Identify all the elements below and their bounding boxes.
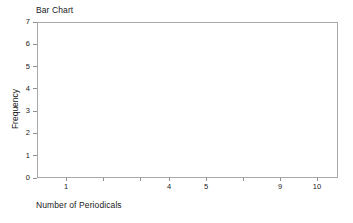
y-axis-tick-mark bbox=[33, 111, 37, 112]
y-axis-tick-label: 2 bbox=[18, 128, 30, 137]
bar-chart-figure: Bar Chart Frequency 01234567 145910 Numb… bbox=[0, 0, 353, 223]
y-axis-tick-label: 1 bbox=[18, 151, 30, 160]
x-axis-tick-label: 1 bbox=[56, 182, 76, 191]
y-axis-tick-label: 4 bbox=[18, 84, 30, 93]
y-axis-tick-mark bbox=[33, 44, 37, 45]
x-axis-title: Number of Periodicals bbox=[36, 200, 122, 211]
x-axis-tick-mark bbox=[66, 178, 67, 181]
y-axis-tick-label: 6 bbox=[18, 39, 30, 48]
y-axis-tick-mark bbox=[33, 22, 37, 23]
x-axis-tick-mark bbox=[280, 178, 281, 181]
x-axis-tick-label: 4 bbox=[159, 182, 179, 191]
x-axis-tick-mark bbox=[317, 178, 318, 181]
y-axis-tick-label: 7 bbox=[18, 17, 30, 26]
y-axis-tick-mark bbox=[33, 66, 37, 67]
x-axis-tick-label: 5 bbox=[196, 182, 216, 191]
plot-area bbox=[38, 23, 337, 177]
y-axis-tick-label: 3 bbox=[18, 106, 30, 115]
x-axis-tick-mark bbox=[206, 178, 207, 181]
chart-title: Bar Chart bbox=[36, 5, 73, 16]
x-axis-tick-mark bbox=[140, 178, 141, 181]
x-axis-tick-label: 10 bbox=[307, 182, 327, 191]
bars-layer bbox=[38, 23, 337, 177]
x-axis-tick-mark bbox=[243, 178, 244, 181]
x-axis-tick-mark bbox=[169, 178, 170, 181]
y-axis-tick-mark bbox=[33, 133, 37, 134]
y-axis-tick-mark bbox=[33, 88, 37, 89]
x-axis-tick-mark bbox=[103, 178, 104, 181]
y-axis-tick-mark bbox=[33, 178, 37, 179]
x-axis-tick-label: 9 bbox=[270, 182, 290, 191]
y-axis-tick-label: 5 bbox=[18, 62, 30, 71]
y-axis-tick-mark bbox=[33, 155, 37, 156]
y-axis-tick-label: 0 bbox=[18, 173, 30, 182]
